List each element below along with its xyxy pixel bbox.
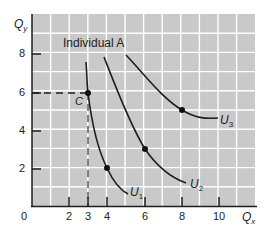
x-tick-label-2: 2 xyxy=(66,211,72,222)
y-tick-label-8: 8 xyxy=(19,48,25,59)
point-c-label: C xyxy=(75,96,83,107)
point-u2-marker xyxy=(142,146,148,152)
point-u1-marker xyxy=(104,165,110,171)
origin-label: 0 xyxy=(21,211,27,222)
y-tick-label-2: 2 xyxy=(19,163,25,174)
x-tick-label-4: 4 xyxy=(104,211,110,222)
curve-u3-label: U3 xyxy=(220,114,233,129)
x-tick-label-10: 10 xyxy=(213,211,225,222)
y-tick-label-4: 4 xyxy=(19,125,25,136)
x-tick-label-3: 3 xyxy=(85,211,91,222)
point-u3-marker xyxy=(179,107,185,113)
curve-u1-label: U1 xyxy=(130,186,143,201)
chart-title: Individual A xyxy=(63,37,124,49)
indifference-curve-chart: Qy Qx Individual A 8 6 4 2 0 2 3 4 6 8 1… xyxy=(0,0,272,236)
point-c-marker xyxy=(85,90,91,96)
y-axis-title: Qy xyxy=(14,18,27,33)
x-tick-label-8: 8 xyxy=(179,211,185,222)
y-tick-label-6: 6 xyxy=(19,87,25,98)
x-tick-label-6: 6 xyxy=(142,211,148,222)
curve-u2-label: U2 xyxy=(190,178,203,193)
x-axis-title: Qx xyxy=(242,211,255,226)
